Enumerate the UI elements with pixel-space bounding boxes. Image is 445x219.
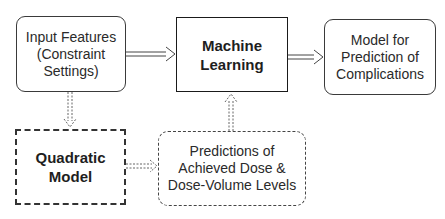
node-quadratic-model-label: Quadratic Model [35, 148, 105, 186]
node-quadratic-model: Quadratic Model [15, 129, 126, 205]
arrow-predictions-to-ml [225, 94, 237, 131]
node-model-prediction: Model for Prediction of Complications [324, 19, 436, 95]
node-input-features-label: Input Features (Constraint Settings) [26, 29, 116, 80]
node-input-features: Input Features (Constraint Settings) [16, 16, 126, 92]
node-predictions-dose: Predictions of Achieved Dose & Dose-Volu… [158, 131, 306, 206]
node-machine-learning: Machine Learning [176, 17, 288, 92]
arrow-input-to-quadratic [64, 92, 76, 127]
arrow-quadratic-to-predictions [126, 160, 157, 172]
node-machine-learning-label: Machine Learning [200, 36, 263, 74]
node-model-prediction-label: Model for Prediction of Complications [336, 32, 424, 83]
arrow-ml-to-model [288, 50, 323, 64]
node-predictions-dose-label: Predictions of Achieved Dose & Dose-Volu… [168, 143, 296, 194]
arrow-input-to-ml [126, 47, 175, 61]
